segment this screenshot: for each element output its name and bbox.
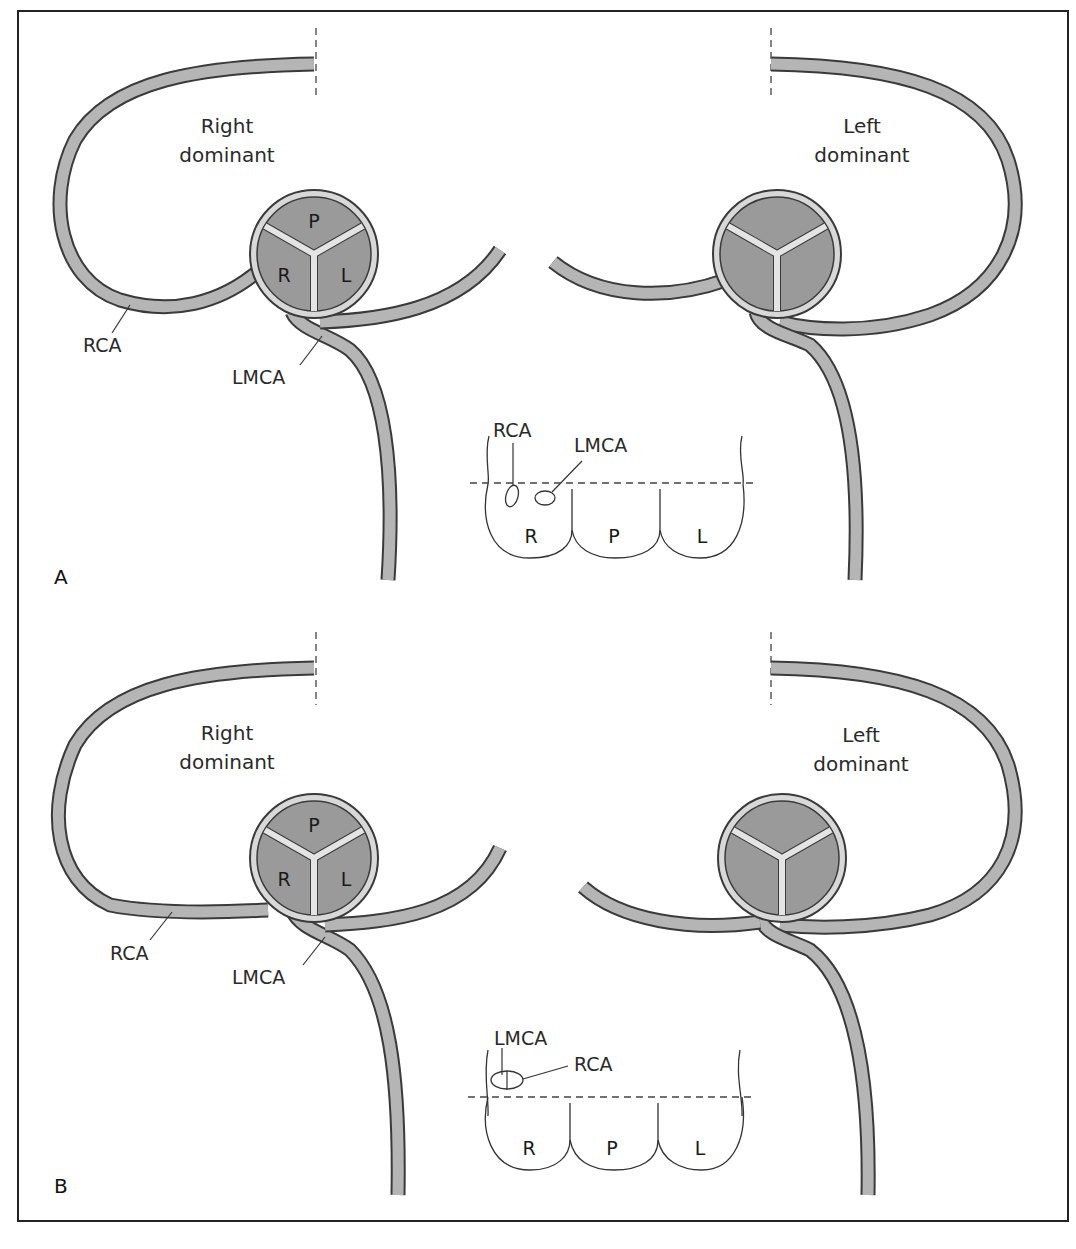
inset-lmca-label: LMCA bbox=[574, 434, 627, 456]
cusp-label-left: L bbox=[341, 264, 352, 286]
inset-rca-label: RCA bbox=[574, 1053, 613, 1075]
aortic-valve: P R L bbox=[250, 794, 378, 922]
aortic-valve bbox=[713, 190, 841, 318]
rca-ostium bbox=[503, 484, 520, 508]
panel-a-right-dominant-diagram: P R L Right dominant RCA LMCA bbox=[60, 28, 500, 580]
sinus-posterior bbox=[572, 489, 660, 558]
aortic-wall-right bbox=[740, 436, 743, 484]
aortic-valve: P R L bbox=[250, 190, 378, 318]
lmca-vessel bbox=[756, 312, 856, 580]
panel-b-left-dominant-diagram: Left dominant bbox=[583, 632, 1015, 1195]
diagram-title-line1: Left bbox=[843, 114, 881, 138]
sinus-left bbox=[658, 1097, 743, 1170]
diagram-title-line1: Left bbox=[842, 723, 880, 747]
inset-sinus-label-l: L bbox=[697, 525, 708, 547]
cusp-label-left: L bbox=[341, 868, 352, 890]
panel-label-a: A bbox=[54, 565, 68, 589]
panel-a: P R L Right dominant RCA LMCA bbox=[54, 28, 1015, 589]
diagram-title-line2: dominant bbox=[179, 750, 275, 774]
rca-leader-line bbox=[112, 305, 130, 333]
diagram-title-line2: dominant bbox=[179, 143, 275, 167]
aortic-wall-right bbox=[738, 1050, 742, 1116]
diagram-title-line1: Right bbox=[201, 114, 254, 138]
sinus-right bbox=[485, 1097, 570, 1170]
inset-sinus-label-l: L bbox=[695, 1137, 706, 1159]
coronary-dominance-figure: P R L Right dominant RCA LMCA bbox=[0, 0, 1076, 1249]
panel-a-sinus-inset: RCA LMCA R P L bbox=[470, 419, 756, 558]
inset-sinus-label-r: R bbox=[522, 1137, 535, 1159]
lmca-ostium bbox=[535, 491, 555, 505]
diagram-title-line2: dominant bbox=[814, 143, 910, 167]
cusp-label-posterior: P bbox=[308, 210, 319, 232]
panel-label-b: B bbox=[54, 1174, 68, 1198]
rca-ostium-leader bbox=[523, 1066, 568, 1079]
aortic-wall-left bbox=[487, 436, 489, 484]
diagram-canvas: P R L Right dominant RCA LMCA bbox=[0, 0, 1076, 1249]
lmca-vessel bbox=[760, 918, 868, 1195]
cusp-label-posterior: P bbox=[308, 814, 319, 836]
inset-sinus-label-p: P bbox=[608, 525, 619, 547]
lmca-ostium-leader bbox=[552, 461, 582, 492]
diagram-title-line2: dominant bbox=[813, 752, 909, 776]
cusp-label-right: R bbox=[277, 868, 290, 890]
lmca-leader-line bbox=[300, 336, 322, 365]
lmca-label: LMCA bbox=[232, 366, 285, 388]
lmca-label: LMCA bbox=[232, 966, 285, 988]
rca-label: RCA bbox=[110, 942, 149, 964]
inset-sinus-label-r: R bbox=[524, 525, 537, 547]
diagram-title-line1: Right bbox=[201, 721, 254, 745]
cusp-label-right: R bbox=[277, 264, 290, 286]
panel-b-sinus-inset: LMCA RCA R P L bbox=[468, 1027, 754, 1170]
panel-b: P R L Right dominant RCA LMCA bbox=[54, 632, 1015, 1198]
rca-label: RCA bbox=[83, 334, 122, 356]
aortic-valve bbox=[718, 794, 846, 922]
inset-rca-label: RCA bbox=[493, 419, 532, 441]
panel-a-left-dominant-diagram: Left dominant bbox=[553, 28, 1015, 580]
inset-sinus-label-p: P bbox=[606, 1137, 617, 1159]
panel-b-right-dominant-diagram: P R L Right dominant RCA LMCA bbox=[58, 632, 500, 1195]
rca-vessel bbox=[553, 262, 726, 293]
inset-lmca-label: LMCA bbox=[494, 1027, 547, 1049]
lmca-leader-line bbox=[303, 937, 325, 965]
